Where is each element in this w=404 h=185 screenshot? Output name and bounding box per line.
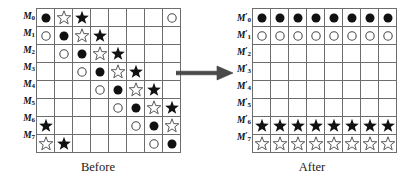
after-cell-3-1[interactable] xyxy=(271,63,289,81)
after-cell-4-2[interactable] xyxy=(289,81,307,99)
after-cell-4-4[interactable] xyxy=(325,81,343,99)
before-cell-6-2[interactable] xyxy=(73,117,91,135)
before-cell-4-1[interactable] xyxy=(55,81,73,99)
after-cell-2-3[interactable] xyxy=(307,45,325,63)
before-cell-5-3[interactable] xyxy=(91,99,109,117)
before-cell-2-7[interactable] xyxy=(163,45,181,63)
before-cell-2-0[interactable] xyxy=(37,45,55,63)
after-cell-3-6[interactable] xyxy=(361,63,379,81)
before-cell-3-1[interactable] xyxy=(55,63,73,81)
before-cell-0-7[interactable] xyxy=(163,9,181,27)
before-cell-7-3[interactable] xyxy=(91,135,109,153)
before-cell-0-1[interactable] xyxy=(55,9,73,27)
after-cell-5-6[interactable] xyxy=(361,99,379,117)
before-cell-7-7[interactable] xyxy=(163,135,181,153)
before-cell-5-5[interactable] xyxy=(127,99,145,117)
after-cell-6-1[interactable] xyxy=(271,117,289,135)
after-cell-7-3[interactable] xyxy=(307,135,325,153)
after-cell-4-5[interactable] xyxy=(343,81,361,99)
after-cell-3-2[interactable] xyxy=(289,63,307,81)
after-cell-3-7[interactable] xyxy=(379,63,397,81)
after-cell-0-2[interactable] xyxy=(289,9,307,27)
after-cell-3-4[interactable] xyxy=(325,63,343,81)
after-cell-3-0[interactable] xyxy=(253,63,271,81)
after-cell-2-2[interactable] xyxy=(289,45,307,63)
before-cell-1-6[interactable] xyxy=(145,27,163,45)
before-cell-6-6[interactable] xyxy=(145,117,163,135)
before-cell-1-2[interactable] xyxy=(73,27,91,45)
before-cell-1-7[interactable] xyxy=(163,27,181,45)
after-cell-7-6[interactable] xyxy=(361,135,379,153)
before-cell-0-4[interactable] xyxy=(109,9,127,27)
after-cell-1-6[interactable] xyxy=(361,27,379,45)
before-cell-3-4[interactable] xyxy=(109,63,127,81)
before-cell-4-2[interactable] xyxy=(73,81,91,99)
after-cell-7-2[interactable] xyxy=(289,135,307,153)
before-cell-6-0[interactable] xyxy=(37,117,55,135)
after-cell-4-0[interactable] xyxy=(253,81,271,99)
before-cell-7-0[interactable] xyxy=(37,135,55,153)
before-cell-4-3[interactable] xyxy=(91,81,109,99)
after-cell-6-3[interactable] xyxy=(307,117,325,135)
after-cell-0-5[interactable] xyxy=(343,9,361,27)
after-cell-7-5[interactable] xyxy=(343,135,361,153)
after-cell-5-2[interactable] xyxy=(289,99,307,117)
before-cell-2-2[interactable] xyxy=(73,45,91,63)
before-cell-5-2[interactable] xyxy=(73,99,91,117)
before-cell-3-2[interactable] xyxy=(73,63,91,81)
after-cell-0-7[interactable] xyxy=(379,9,397,27)
before-cell-0-6[interactable] xyxy=(145,9,163,27)
before-cell-5-4[interactable] xyxy=(109,99,127,117)
after-cell-0-1[interactable] xyxy=(271,9,289,27)
after-cell-6-4[interactable] xyxy=(325,117,343,135)
after-cell-2-0[interactable] xyxy=(253,45,271,63)
before-cell-6-1[interactable] xyxy=(55,117,73,135)
before-cell-6-5[interactable] xyxy=(127,117,145,135)
after-cell-3-3[interactable] xyxy=(307,63,325,81)
before-cell-7-1[interactable] xyxy=(55,135,73,153)
before-cell-7-4[interactable] xyxy=(109,135,127,153)
after-cell-2-6[interactable] xyxy=(361,45,379,63)
before-cell-2-1[interactable] xyxy=(55,45,73,63)
before-cell-2-3[interactable] xyxy=(91,45,109,63)
after-cell-6-6[interactable] xyxy=(361,117,379,135)
before-cell-2-4[interactable] xyxy=(109,45,127,63)
before-cell-3-5[interactable] xyxy=(127,63,145,81)
before-cell-5-7[interactable] xyxy=(163,99,181,117)
after-cell-5-1[interactable] xyxy=(271,99,289,117)
after-cell-1-3[interactable] xyxy=(307,27,325,45)
before-cell-6-7[interactable] xyxy=(163,117,181,135)
before-cell-7-2[interactable] xyxy=(73,135,91,153)
after-cell-2-7[interactable] xyxy=(379,45,397,63)
before-cell-0-5[interactable] xyxy=(127,9,145,27)
after-cell-5-7[interactable] xyxy=(379,99,397,117)
after-cell-1-1[interactable] xyxy=(271,27,289,45)
before-cell-5-6[interactable] xyxy=(145,99,163,117)
before-cell-4-5[interactable] xyxy=(127,81,145,99)
before-cell-1-3[interactable] xyxy=(91,27,109,45)
after-cell-6-0[interactable] xyxy=(253,117,271,135)
after-cell-0-0[interactable] xyxy=(253,9,271,27)
before-cell-1-5[interactable] xyxy=(127,27,145,45)
before-cell-4-0[interactable] xyxy=(37,81,55,99)
after-cell-5-3[interactable] xyxy=(307,99,325,117)
after-cell-7-7[interactable] xyxy=(379,135,397,153)
after-cell-3-5[interactable] xyxy=(343,63,361,81)
after-cell-6-5[interactable] xyxy=(343,117,361,135)
before-cell-3-6[interactable] xyxy=(145,63,163,81)
after-cell-1-4[interactable] xyxy=(325,27,343,45)
after-cell-2-4[interactable] xyxy=(325,45,343,63)
before-cell-4-7[interactable] xyxy=(163,81,181,99)
before-cell-1-4[interactable] xyxy=(109,27,127,45)
after-cell-1-7[interactable] xyxy=(379,27,397,45)
before-cell-3-0[interactable] xyxy=(37,63,55,81)
after-cell-2-1[interactable] xyxy=(271,45,289,63)
before-cell-2-6[interactable] xyxy=(145,45,163,63)
after-cell-2-5[interactable] xyxy=(343,45,361,63)
after-cell-1-0[interactable] xyxy=(253,27,271,45)
after-cell-4-6[interactable] xyxy=(361,81,379,99)
before-cell-2-5[interactable] xyxy=(127,45,145,63)
after-cell-4-1[interactable] xyxy=(271,81,289,99)
after-cell-6-7[interactable] xyxy=(379,117,397,135)
after-cell-0-6[interactable] xyxy=(361,9,379,27)
